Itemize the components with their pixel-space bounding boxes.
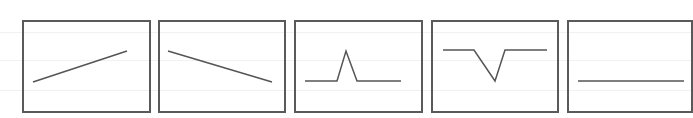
peak-line-shape: [305, 51, 401, 81]
rising-line-shape: [33, 51, 127, 82]
valley-line-shape: [443, 50, 547, 81]
falling-line-shape: [168, 51, 272, 82]
